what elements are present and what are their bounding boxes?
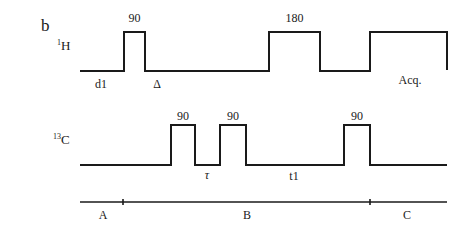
pulse-sequence-diagram: b 1H 90 180 d1 Δ Acq. 13C 90 90 90 τ t1 … — [0, 0, 463, 229]
h1-pulse-train — [80, 32, 447, 71]
h1-pulse-180-label: 180 — [286, 11, 304, 25]
segment-a-label: A — [99, 208, 108, 222]
t1-delay-label: t1 — [289, 169, 298, 183]
h1-label-main: H — [61, 38, 70, 53]
c13-pulse-90-label-3: 90 — [351, 109, 363, 123]
segment-c-label: C — [403, 208, 411, 222]
c13-channel-label: 13C — [53, 132, 70, 147]
panel-label: b — [41, 16, 50, 35]
c13-label-main: C — [61, 132, 70, 147]
h1-pulse-90-label: 90 — [129, 11, 141, 25]
segment-b-label: B — [243, 208, 251, 222]
c13-pulse-train — [80, 125, 447, 165]
d1-delay-label: d1 — [95, 77, 107, 91]
c13-label-superscript: 13 — [53, 132, 61, 141]
c13-pulse-90-label-1: 90 — [177, 109, 189, 123]
c13-pulse-90-label-2: 90 — [227, 109, 239, 123]
delta-delay-label: Δ — [153, 77, 161, 91]
acquisition-label: Acq. — [399, 73, 422, 87]
h1-channel-label: 1H — [57, 38, 70, 53]
tau-delay-label: τ — [205, 168, 210, 182]
